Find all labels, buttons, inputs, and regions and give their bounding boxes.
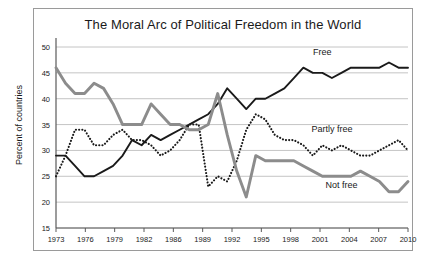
x-tick-label: 2004 [341, 235, 358, 244]
x-tick-label: 2010 [400, 235, 417, 244]
x-tick-label: 2007 [370, 235, 387, 244]
y-tick-label: 20 [42, 198, 50, 207]
x-tick-label: 1979 [106, 235, 123, 244]
x-tick-label: 1998 [282, 235, 299, 244]
chart-figure: The Moral Arc of Political Freedom in th… [0, 0, 446, 270]
y-tick-label: 40 [42, 95, 50, 104]
x-tick-label: 1982 [136, 235, 153, 244]
x-tick-label: 1989 [194, 235, 211, 244]
series-label-not-free: Not free [325, 180, 357, 190]
x-tick-label: 1986 [165, 235, 182, 244]
y-tick-label: 15 [42, 224, 50, 233]
y-tick-label: 45 [42, 69, 50, 78]
x-tick-label: 1973 [48, 235, 65, 244]
y-tick-label: 25 [42, 172, 50, 181]
series-label-free: Free [313, 47, 332, 57]
chart-plot: 1520253035404550197319761979198219861989… [0, 0, 446, 270]
series-line-free [56, 63, 408, 177]
x-tick-label: 1976 [77, 235, 94, 244]
x-tick-label: 2001 [312, 235, 329, 244]
series-line-not-free [56, 68, 408, 197]
x-tick-label: 1992 [224, 235, 241, 244]
series-label-partly-free: Partly free [311, 124, 352, 134]
y-tick-label: 35 [42, 121, 50, 130]
x-tick-label: 1995 [253, 235, 270, 244]
y-tick-label: 30 [42, 146, 50, 155]
y-tick-label: 50 [42, 43, 50, 52]
